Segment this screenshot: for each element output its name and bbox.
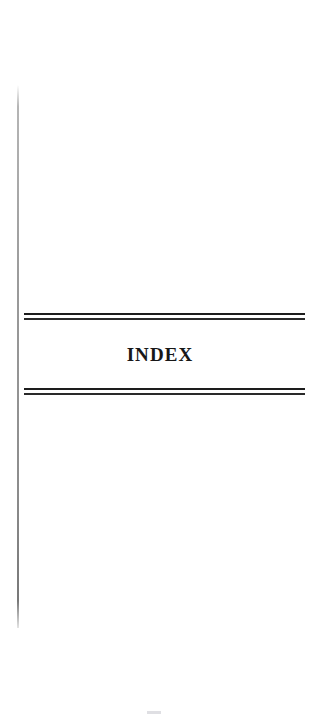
page-title: INDEX — [4, 344, 317, 366]
scan-smudge-artifact — [147, 711, 161, 714]
rule-line-upper — [24, 313, 305, 315]
rule-line-upper — [24, 388, 305, 390]
rule-line-lower — [24, 393, 305, 395]
rule-line-lower — [24, 318, 305, 320]
scanned-page: INDEX — [4, 0, 317, 718]
double-rule-below-heading — [24, 388, 305, 395]
double-rule-above-heading — [24, 313, 305, 320]
